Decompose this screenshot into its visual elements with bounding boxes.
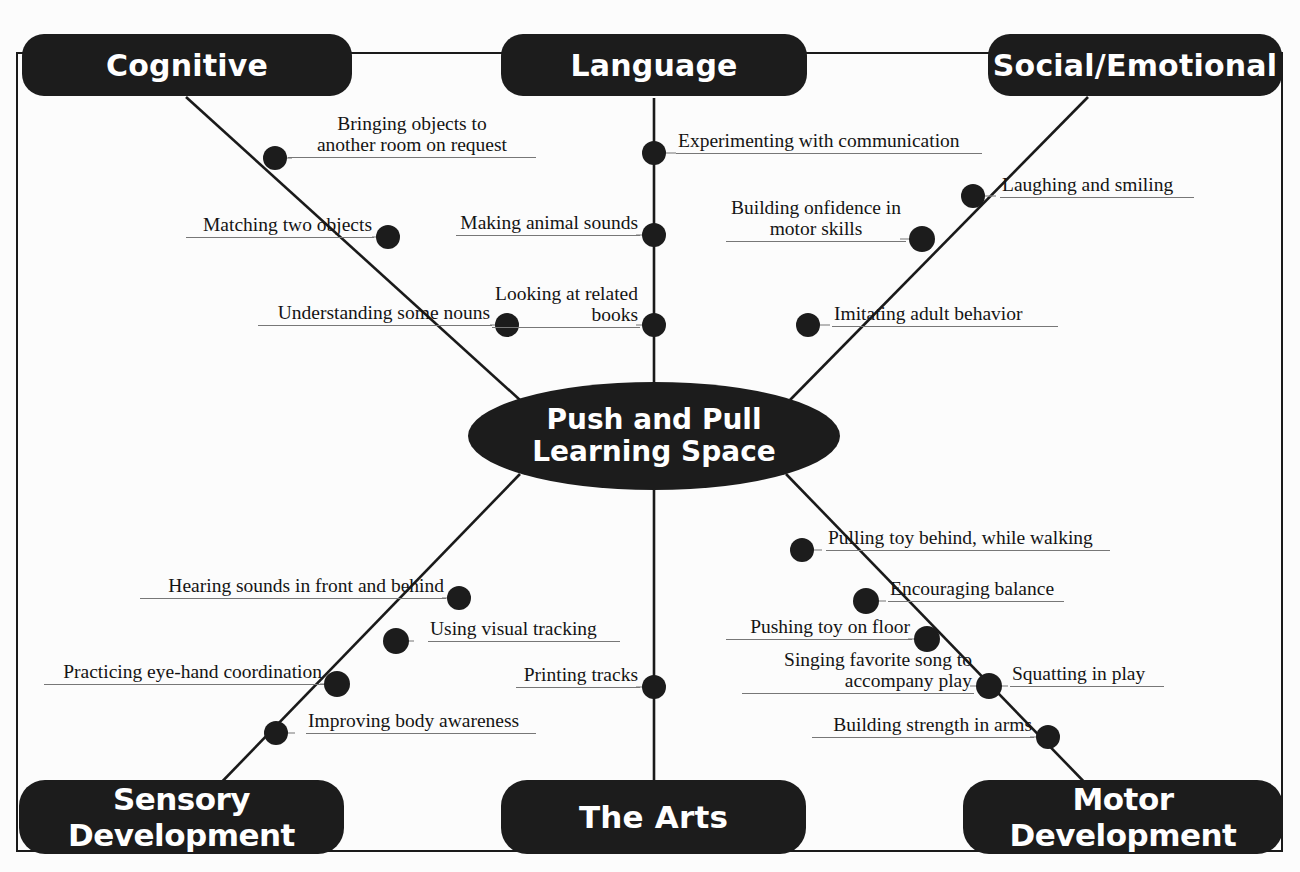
category-label-sensory: Sensory Development — [19, 781, 344, 853]
node-dot[interactable] — [790, 538, 814, 562]
leaf-motor-5-text: Squatting in play — [1012, 663, 1145, 684]
node-dot[interactable] — [642, 141, 666, 165]
center-topic-node[interactable]: Push and Pull Learning Space — [468, 382, 840, 490]
leaf-language-2-text: Making animal sounds — [460, 212, 638, 233]
center-topic-line1: Push and Pull — [546, 404, 761, 436]
leaf-motor-4[interactable]: Singing favorite song to accompany play — [742, 650, 974, 694]
leaf-motor-1-text: Pulling toy behind, while walking — [828, 527, 1093, 548]
node-dot[interactable] — [264, 721, 288, 745]
leaf-language-3-line1: Looking at related — [495, 283, 638, 304]
node-dot[interactable] — [961, 184, 985, 208]
category-box-arts[interactable]: The Arts — [501, 780, 806, 854]
leaf-cognitive-1[interactable]: Bringing objects to another room on requ… — [288, 114, 536, 158]
leaf-sensory-1[interactable]: Hearing sounds in front and behind — [140, 575, 446, 599]
leaf-cognitive-2-text: Matching two objects — [203, 214, 372, 235]
leaf-sensory-3[interactable]: Practicing eye-hand coordination — [44, 661, 324, 685]
leaf-motor-6[interactable]: Building strength in arms — [812, 714, 1034, 738]
leaf-motor-1[interactable]: Pulling toy behind, while walking — [826, 527, 1110, 551]
leaf-motor-3-text: Pushing toy on floor — [750, 616, 910, 637]
category-label-language: Language — [570, 48, 737, 83]
leaf-language-3[interactable]: Looking at related books — [492, 284, 640, 328]
leaf-sensory-1-text: Hearing sounds in front and behind — [168, 575, 444, 596]
node-dot[interactable] — [642, 675, 666, 699]
leaf-motor-6-text: Building strength in arms — [833, 714, 1032, 735]
leaf-social-1[interactable]: Laughing and smiling — [1000, 174, 1194, 198]
node-dot[interactable] — [376, 225, 400, 249]
category-box-cognitive[interactable]: Cognitive — [22, 34, 352, 96]
leaf-cognitive-2[interactable]: Matching two objects — [186, 214, 374, 238]
leaf-social-3[interactable]: Imitating adult behavior — [832, 303, 1058, 327]
node-dot[interactable] — [383, 628, 409, 654]
leaf-motor-2-text: Encouraging balance — [890, 578, 1054, 599]
category-box-social-emotional[interactable]: Social/Emotional — [988, 34, 1282, 96]
leaf-sensory-4[interactable]: Improving body awareness — [306, 710, 536, 734]
category-label-motor: Motor Development — [963, 781, 1283, 853]
leaf-arts-1-text: Printing tracks — [524, 664, 638, 685]
leaf-social-3-text: Imitating adult behavior — [834, 303, 1022, 324]
leaf-sensory-2[interactable]: Using visual tracking — [428, 618, 620, 642]
leaf-cognitive-1-line2: another room on request — [317, 134, 507, 155]
leaf-motor-4-line1: Singing favorite song to — [784, 649, 972, 670]
node-dot[interactable] — [642, 223, 666, 247]
leaf-cognitive-3-text: Understanding some nouns — [278, 302, 490, 323]
leaf-arts-1[interactable]: Printing tracks — [516, 664, 640, 688]
leaf-motor-2[interactable]: Encouraging balance — [888, 578, 1064, 602]
node-dot[interactable] — [263, 146, 287, 170]
category-label-arts: The Arts — [579, 799, 728, 835]
leaf-social-2-line1: Building onfidence in — [731, 197, 901, 218]
category-box-language[interactable]: Language — [501, 34, 807, 96]
category-label-social-emotional: Social/Emotional — [993, 48, 1277, 83]
node-dot[interactable] — [796, 313, 820, 337]
leaf-social-1-text: Laughing and smiling — [1002, 174, 1173, 195]
leaf-sensory-2-text: Using visual tracking — [430, 618, 597, 639]
leaf-language-2[interactable]: Making animal sounds — [456, 212, 640, 236]
node-dot[interactable] — [447, 586, 471, 610]
node-dot[interactable] — [853, 588, 879, 614]
leaf-motor-5[interactable]: Squatting in play — [1010, 663, 1164, 687]
node-dot[interactable] — [909, 226, 935, 252]
leaf-language-1-text: Experimenting with communication — [678, 130, 960, 151]
leaf-language-1[interactable]: Experimenting with communication — [676, 130, 982, 154]
center-topic-line2: Learning Space — [532, 436, 775, 468]
leaf-social-2[interactable]: Building onfidence in motor skills — [726, 198, 906, 242]
leaf-sensory-3-text: Practicing eye-hand coordination — [63, 661, 322, 682]
leaf-cognitive-3[interactable]: Understanding some nouns — [258, 302, 492, 326]
node-dot[interactable] — [1036, 725, 1060, 749]
leaf-social-2-line2: motor skills — [770, 218, 863, 239]
leaf-motor-4-line2: accompany play — [845, 670, 972, 691]
leaf-cognitive-1-line1: Bringing objects to — [337, 113, 487, 134]
leaf-sensory-4-text: Improving body awareness — [308, 710, 519, 731]
leaf-motor-3[interactable]: Pushing toy on floor — [726, 616, 912, 640]
diagram-canvas: Cognitive Language Social/Emotional Sens… — [0, 0, 1300, 872]
leaf-language-3-line2: books — [591, 304, 638, 325]
node-dot[interactable] — [642, 313, 666, 337]
node-dot[interactable] — [976, 673, 1002, 699]
category-box-motor[interactable]: Motor Development — [963, 780, 1283, 854]
category-box-sensory[interactable]: Sensory Development — [19, 780, 344, 854]
node-dot[interactable] — [324, 671, 350, 697]
category-label-cognitive: Cognitive — [106, 48, 268, 83]
